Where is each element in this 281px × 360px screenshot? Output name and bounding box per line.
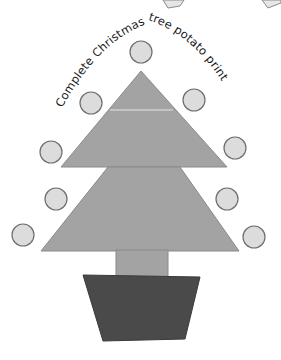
ornament-circle: [183, 89, 205, 111]
ornament-circle: [243, 226, 265, 248]
potato-print-illustration: Complete Christmas tree potato print: [0, 0, 281, 360]
ornament-circle: [216, 188, 238, 210]
ornament-circle: [224, 137, 246, 159]
cropped-object-right: [262, 0, 281, 8]
ornament-circle: [45, 188, 67, 210]
flower-pot: [83, 275, 200, 341]
ornament-circle: [80, 92, 102, 114]
tree-top-tier: [61, 71, 227, 167]
cropped-object-left: [163, 0, 184, 8]
ornament-circle: [40, 141, 62, 163]
ornament-circle: [12, 224, 34, 246]
ornament-circle: [130, 41, 152, 63]
tree-bottom-tier: [41, 167, 239, 251]
tree-illustration-svg: Complete Christmas tree potato print: [0, 0, 281, 360]
caption-right: tree potato print: [147, 10, 231, 84]
tree-trunk: [116, 250, 168, 277]
